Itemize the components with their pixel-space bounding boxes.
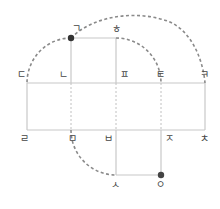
label-ieung: ㅇ xyxy=(156,180,165,190)
label-kieuk: ㅋ xyxy=(200,70,209,80)
label-hieut: ㅎ xyxy=(112,25,121,35)
label-tieut: ㅌ xyxy=(156,70,165,80)
dot-ieung xyxy=(158,172,164,178)
arc-giyeok-kieuk xyxy=(71,15,205,83)
label-pieup: ㅍ xyxy=(120,70,129,80)
label-jieut: ㅈ xyxy=(165,134,174,144)
label-giyeok: ㄱ xyxy=(72,24,81,34)
solid-lines xyxy=(27,38,205,175)
dot-giyeok xyxy=(68,35,74,41)
label-mieum: ㅁ xyxy=(68,134,77,144)
label-bieup: ㅂ xyxy=(104,134,113,144)
label-rieul: ㄹ xyxy=(20,134,29,144)
label-nieun: ㄴ xyxy=(59,70,68,80)
label-chieut: ㅊ xyxy=(200,134,209,144)
net-diagram xyxy=(0,0,220,209)
dotted-lines xyxy=(71,83,161,130)
label-siot: ㅅ xyxy=(111,180,120,190)
label-digeut: ㄷ xyxy=(17,70,26,80)
